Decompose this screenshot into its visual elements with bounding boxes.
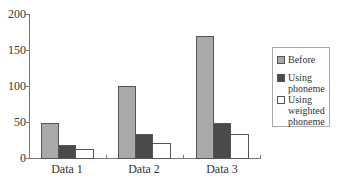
bar-data3-phoneme <box>213 123 231 159</box>
legend-item-weighted: Using weighted phoneme <box>277 94 330 127</box>
legend-label: Using weighted phoneme <box>288 94 330 127</box>
legend-label: Using phoneme <box>288 72 330 94</box>
bar-data2-weighted <box>152 143 171 159</box>
y-tick <box>26 158 29 159</box>
legend-swatch-icon <box>277 74 285 82</box>
y-tick-label: 100 <box>8 80 26 92</box>
legend-swatch-icon <box>277 96 285 104</box>
y-tick-label: 50 <box>14 116 26 128</box>
x-tick <box>106 155 107 158</box>
x-tick <box>260 155 261 158</box>
bar-data1-before <box>41 123 59 159</box>
bar-data3-before <box>196 36 214 159</box>
legend-swatch-icon <box>277 56 285 64</box>
y-tick <box>26 86 29 87</box>
x-label-data1: Data 1 <box>37 162 97 176</box>
y-tick-label: 150 <box>8 44 26 56</box>
bar-data3-weighted <box>230 134 249 159</box>
y-tick-label: 0 <box>20 152 26 164</box>
x-tick <box>183 155 184 158</box>
y-tick <box>26 14 29 15</box>
bar-chart: 0 50 100 150 200 Data 1 Data 2 Data 3 Be… <box>0 0 338 180</box>
y-axis <box>29 14 30 159</box>
y-tick <box>26 50 29 51</box>
legend-item-phoneme: Using phoneme <box>277 72 330 94</box>
legend: Before Using phoneme Using weighted phon… <box>272 47 330 127</box>
bar-data2-phoneme <box>135 134 153 159</box>
x-label-data2: Data 2 <box>114 162 174 176</box>
legend-label: Before <box>288 54 330 65</box>
y-tick-label: 200 <box>8 8 26 20</box>
bar-data1-phoneme <box>58 145 76 159</box>
bar-data2-before <box>118 86 136 159</box>
x-label-data3: Data 3 <box>192 162 252 176</box>
legend-item-before: Before <box>277 54 330 65</box>
y-tick <box>26 122 29 123</box>
bar-data1-weighted <box>75 149 94 159</box>
